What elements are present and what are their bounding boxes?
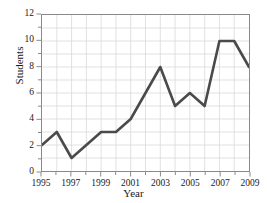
axis-tick-marks bbox=[0, 0, 267, 203]
y-axis-title: Students bbox=[14, 26, 25, 106]
line-chart: 024681012 199519971999200120032005200720… bbox=[0, 0, 267, 203]
x-axis-title: Year bbox=[0, 188, 267, 199]
